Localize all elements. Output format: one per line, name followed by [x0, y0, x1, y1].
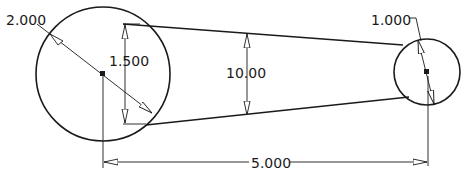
top-tangent-line[interactable]: [123, 24, 403, 45]
sketch-drawing: 2.000 1.500 10.00 1.000 5.000: [0, 0, 464, 178]
big-diameter-arrowhead-top: [50, 34, 63, 45]
small-diameter-leader[interactable]: [418, 40, 434, 104]
dimensions: [37, 18, 434, 168]
big-diameter-label[interactable]: 2.000: [6, 12, 46, 28]
small-diameter-label[interactable]: 1.000: [371, 12, 411, 28]
center-distance-label[interactable]: 5.000: [251, 155, 291, 171]
bottom-tangent-line[interactable]: [146, 97, 409, 125]
middle-vertical-label[interactable]: 10.00: [226, 65, 266, 81]
big-vertical-label[interactable]: 1.500: [109, 53, 149, 69]
